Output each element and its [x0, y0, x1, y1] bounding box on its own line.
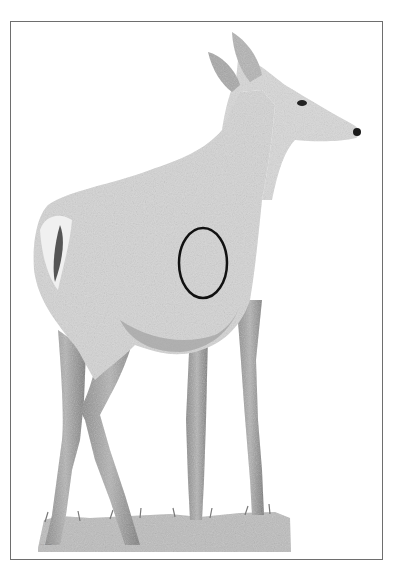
front-leg-right	[236, 300, 264, 515]
print-caption: ····· ····	[40, 543, 52, 547]
nose-icon	[353, 128, 361, 136]
eye-icon	[297, 100, 307, 106]
ear-front	[232, 32, 262, 82]
hind-leg-far	[45, 330, 86, 545]
ear-back	[208, 52, 240, 92]
deer-target-illustration	[0, 0, 395, 578]
hind-leg-near	[80, 340, 140, 545]
front-leg-left	[186, 330, 208, 520]
